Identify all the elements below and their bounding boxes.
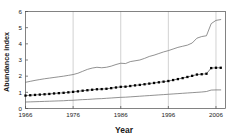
series-marker — [148, 82, 150, 84]
grid-lines — [73, 12, 216, 109]
series-marker — [205, 73, 207, 75]
series-marker — [143, 83, 145, 85]
series-marker — [24, 94, 26, 96]
plot-frame-rect — [26, 12, 226, 109]
series-marker — [153, 82, 155, 84]
plot-frame — [26, 12, 226, 109]
y-tick-label: 3 — [19, 56, 23, 63]
series-line-2 — [26, 90, 221, 102]
series-marker — [220, 67, 222, 69]
series-marker — [129, 85, 131, 87]
series-marker — [115, 86, 117, 88]
series-marker — [86, 89, 88, 91]
series-marker — [96, 88, 98, 90]
series-marker — [186, 76, 188, 78]
series-marker — [91, 89, 93, 91]
chart-canvas: 012345619661976198619962006 Year Abundan… — [0, 0, 247, 137]
series-marker — [67, 91, 69, 93]
series-marker — [191, 75, 193, 77]
series-marker — [81, 90, 83, 92]
series-marker — [134, 84, 136, 86]
series-marker — [167, 80, 169, 82]
series-marker — [105, 88, 107, 90]
y-tick-label: 5 — [19, 24, 23, 31]
abundance-index-chart: 012345619661976198619962006 Year Abundan… — [0, 0, 247, 137]
x-axis-title: Year — [115, 125, 134, 135]
series-marker — [124, 86, 126, 88]
series-marker — [215, 67, 217, 69]
x-tick-label: 1966 — [19, 111, 33, 118]
y-tick-label: 6 — [19, 8, 23, 15]
series-marker — [158, 81, 160, 83]
y-tick-label: 1 — [19, 89, 23, 96]
series-marker — [34, 94, 36, 96]
series-marker — [58, 92, 60, 94]
series-marker — [210, 67, 212, 69]
x-tick-label: 1996 — [161, 111, 175, 118]
series-marker — [39, 93, 41, 95]
series-marker — [53, 92, 55, 94]
series-marker — [201, 73, 203, 75]
series-marker — [196, 73, 198, 75]
series-line-1 — [26, 68, 221, 96]
x-tick-label: 2006 — [209, 111, 223, 118]
series-marker — [43, 93, 45, 95]
series-marker — [48, 93, 50, 95]
series-marker — [101, 88, 103, 90]
x-tick-label: 1976 — [66, 111, 80, 118]
series-marker — [110, 87, 112, 89]
series-marker — [62, 92, 64, 94]
y-axis-title: Abundance index — [2, 32, 11, 92]
series-marker — [177, 78, 179, 80]
series-marker — [139, 84, 141, 86]
series-marker — [77, 90, 79, 92]
series-group — [24, 20, 222, 102]
series-marker — [29, 94, 31, 96]
series-line-0 — [26, 20, 221, 83]
series-marker — [120, 86, 122, 88]
y-tick-label: 4 — [19, 40, 23, 47]
series-marker — [72, 91, 74, 93]
x-tick-label: 1986 — [114, 111, 128, 118]
series-marker — [181, 77, 183, 79]
series-marker — [162, 81, 164, 83]
series-marker — [172, 79, 174, 81]
y-tick-label: 2 — [19, 72, 23, 79]
